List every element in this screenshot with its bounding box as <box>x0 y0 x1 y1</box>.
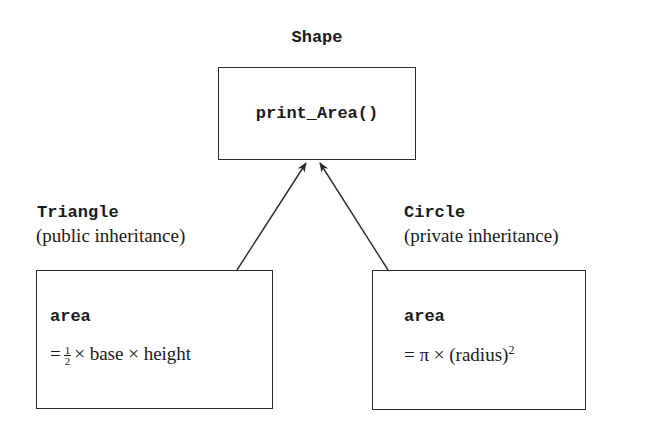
circle-class-box: area = π × (radius)2 <box>372 270 586 410</box>
triangle-class-box: area =12× base × height <box>36 270 273 409</box>
shape-method: print_Area() <box>219 104 415 123</box>
triangle-inheritance-label: (public inheritance) <box>36 225 185 247</box>
arrow-circle-to-shape <box>320 163 388 270</box>
triangle-class-name: Triangle <box>37 203 119 222</box>
triangle-formula-eq: = <box>50 343 61 364</box>
triangle-formula-rest: × base × height <box>74 343 191 364</box>
circle-member: area <box>404 307 445 326</box>
half-fraction: 12 <box>64 345 72 366</box>
circle-formula-main: = π × (radius) <box>404 344 508 365</box>
triangle-member: area <box>50 307 91 326</box>
arrow-triangle-to-shape <box>237 163 306 270</box>
circle-inheritance-label: (private inheritance) <box>404 225 559 247</box>
circle-formula-exponent: 2 <box>508 343 514 357</box>
triangle-formula: =12× base × height <box>50 343 191 366</box>
circle-class-name: Circle <box>404 203 465 222</box>
shape-class-box: print_Area() <box>218 67 416 160</box>
shape-class-name: Shape <box>218 28 416 47</box>
circle-formula: = π × (radius)2 <box>404 343 514 366</box>
